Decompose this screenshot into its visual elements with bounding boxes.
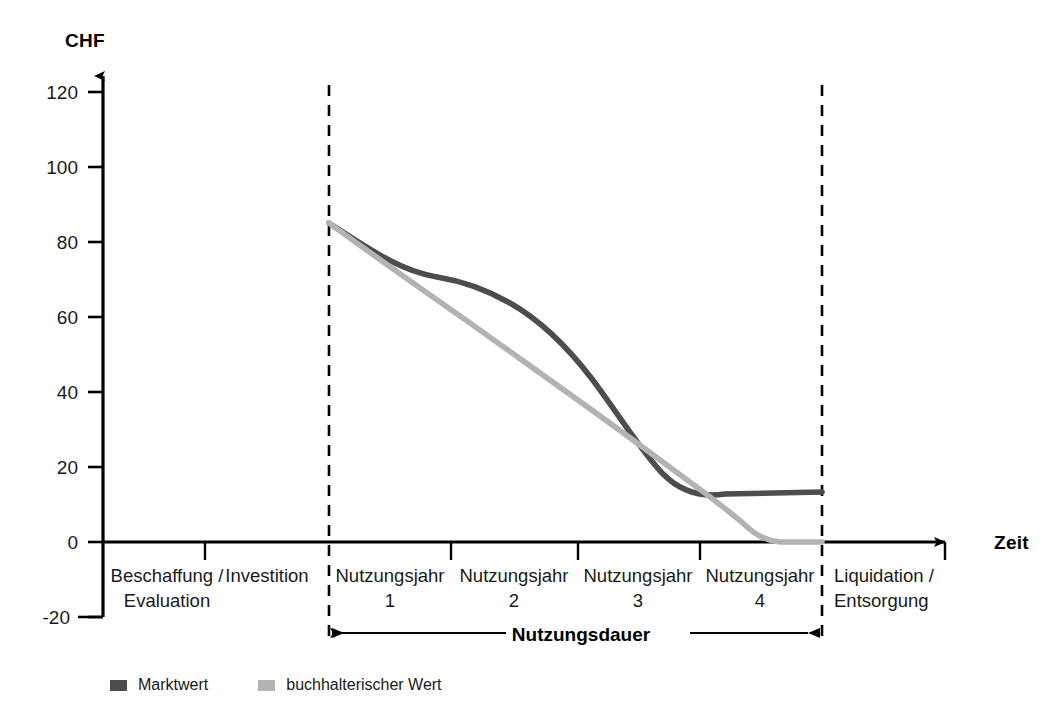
x-axis-name-label: Zeit	[994, 532, 1029, 553]
series-marktwert	[329, 223, 822, 495]
y-tick-label: 20	[57, 457, 78, 478]
chart-canvas: CHF Zeit 120 100 80 60 40 20 0 -20 Besch…	[0, 0, 1052, 725]
chart-legend: Marktwert buchhalterischer Wert	[0, 665, 1052, 705]
legend-item-marktwert: Marktwert	[110, 677, 208, 693]
chart-figure: CHF Zeit 120 100 80 60 40 20 0 -20 Besch…	[0, 0, 1052, 725]
x-category-label: Beschaffung /	[111, 565, 225, 586]
y-tick-label: 60	[57, 307, 78, 328]
y-axis-unit-label: CHF	[65, 30, 105, 51]
y-axis	[88, 76, 103, 617]
x-category-label: Nutzungsjahr	[459, 565, 568, 586]
nutzungsdauer-span-label: Nutzungsdauer	[512, 624, 651, 645]
y-tick-label: 80	[57, 232, 78, 253]
y-tick-label: 0	[67, 532, 78, 553]
x-category-label: 1	[385, 590, 395, 611]
y-tick-label: 40	[57, 382, 78, 403]
x-category-label: 2	[509, 590, 519, 611]
x-category-label: Liquidation /	[834, 565, 935, 586]
legend-swatch-marktwert	[110, 680, 127, 691]
phase-dividers	[329, 85, 822, 645]
legend-swatch-buchhalterischer-wert	[258, 680, 275, 691]
legend-label-buchhalterischer-wert: buchhalterischer Wert	[286, 677, 441, 693]
legend-item-buchhalterischer-wert: buchhalterischer Wert	[258, 677, 441, 693]
y-tick-label: 120	[46, 82, 78, 103]
y-tick-label: -20	[43, 607, 70, 628]
x-category-label: 3	[633, 590, 643, 611]
x-category-label: Investition	[225, 565, 308, 586]
x-category-label: 4	[755, 590, 765, 611]
y-tick-label: 100	[46, 157, 78, 178]
x-category-label: Entsorgung	[834, 590, 929, 611]
x-category-label: Nutzungsjahr	[583, 565, 692, 586]
x-category-label: Evaluation	[124, 590, 210, 611]
x-category-label: Nutzungsjahr	[335, 565, 444, 586]
x-category-label: Nutzungsjahr	[705, 565, 814, 586]
legend-label-marktwert: Marktwert	[138, 677, 208, 693]
